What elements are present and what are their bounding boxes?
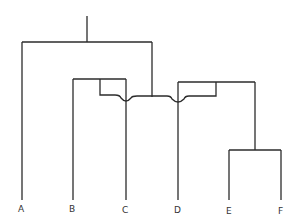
- d-connector: [152, 82, 216, 102]
- leaf-label-b: B: [69, 204, 75, 214]
- leaf-label-c: C: [122, 205, 128, 215]
- leaf-label-d: D: [174, 205, 181, 215]
- leaf-label-a: A: [18, 204, 25, 214]
- leaf-label-e: E: [226, 206, 232, 216]
- leaf-label-f: F: [278, 206, 283, 216]
- dendrogram: A B C D E F: [0, 0, 297, 223]
